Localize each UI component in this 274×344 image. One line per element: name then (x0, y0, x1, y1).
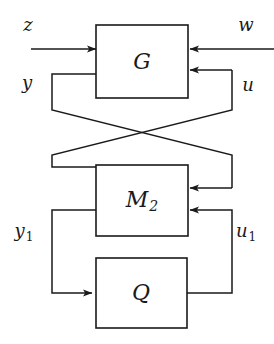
signal-label-z: z (22, 14, 33, 35)
signal-label-u: u (242, 74, 254, 95)
block-q-label: Q (132, 280, 150, 305)
block-diagram-svg: G M2 Q z w y u y1 u1 (0, 0, 274, 344)
wire-u1-q-to-m2 (187, 210, 232, 293)
signal-label-w: w (238, 14, 254, 35)
block-g-label: G (133, 49, 151, 74)
block-diagram-canvas: G M2 Q z w y u y1 u1 (0, 0, 274, 344)
signal-label-y1: y1 (14, 220, 34, 244)
wire-y1-to-q (52, 210, 96, 293)
signal-label-u1: u1 (236, 220, 256, 244)
signal-label-y: y (21, 72, 33, 93)
